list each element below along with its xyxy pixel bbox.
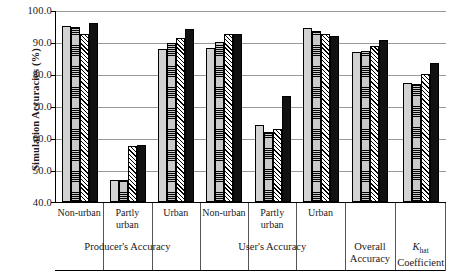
bar	[430, 63, 439, 202]
bar	[412, 84, 421, 202]
bar-groups	[56, 11, 446, 202]
x-label-producers-nonurban: Non-urban	[55, 203, 103, 237]
bar	[215, 42, 224, 202]
bar	[255, 125, 264, 201]
x-label-text: Partlyurban	[115, 207, 139, 230]
y-tick-100: 100.0	[6, 6, 52, 17]
bar	[403, 83, 412, 202]
x-label-overall-accuracy-spacer	[345, 203, 396, 237]
bar	[224, 34, 233, 202]
x-label-text: Partlyurban	[260, 207, 284, 230]
bar-group	[395, 11, 446, 202]
bar	[233, 34, 242, 201]
bar	[379, 40, 388, 202]
y-tick-80: 80.0	[6, 70, 52, 81]
bar	[361, 51, 370, 201]
bar	[185, 29, 194, 202]
plot-right-rule	[445, 203, 446, 271]
bar-group	[56, 11, 104, 202]
bar	[206, 48, 215, 202]
x-label-users-urban: Urban	[296, 203, 344, 237]
x-category-band: Non-urban Partlyurban Urban Non-urban Pa…	[55, 203, 446, 237]
x-label-producers-urban: Urban	[152, 203, 200, 237]
bar	[282, 96, 291, 202]
bar	[110, 180, 119, 202]
x-label-text: Urban	[163, 207, 188, 219]
y-tick-60: 60.0	[6, 134, 52, 145]
bar	[80, 34, 89, 202]
bar	[273, 129, 282, 201]
supergroup-producers-accuracy: Producer's Accuracy	[55, 237, 200, 270]
bar	[158, 49, 167, 202]
x-label-text: Non-urban	[202, 207, 245, 219]
bar-group	[104, 11, 152, 202]
x-label-producers-partly-urban: Partlyurban	[103, 203, 151, 237]
bar-group	[249, 11, 297, 202]
supergroup-khat-coefficient: KhatCoefficient	[395, 237, 446, 270]
bar	[321, 34, 330, 202]
supergroup-users-accuracy: User's Accuracy	[200, 237, 345, 270]
supergroup-label: User's Accuracy	[238, 241, 306, 253]
bar	[421, 74, 430, 202]
y-axis-tick-labels: 100.0 90.0 80.0 70.0 60.0 50.0 40.0	[0, 0, 52, 275]
bar	[119, 180, 128, 201]
bar	[128, 146, 137, 202]
x-supergroup-band: Producer's Accuracy User's Accuracy Over…	[55, 237, 446, 271]
supergroup-label: KhatCoefficient	[397, 241, 444, 268]
bar	[62, 26, 71, 202]
bar	[352, 52, 361, 202]
supergroup-label: OverallAccuracy	[350, 241, 390, 264]
plot-area	[55, 11, 446, 203]
x-label-users-partly-urban: Partlyurban	[248, 203, 296, 237]
bar	[89, 23, 98, 202]
x-label-text: Urban	[308, 207, 333, 219]
bar	[167, 43, 176, 202]
y-tick-50: 50.0	[6, 166, 52, 177]
bar-group	[297, 11, 345, 202]
bar-group	[200, 11, 248, 202]
bar	[176, 38, 185, 201]
y-tick-40: 40.0	[6, 198, 52, 209]
bar	[71, 27, 80, 202]
bar-group	[345, 11, 396, 202]
y-tick-70: 70.0	[6, 102, 52, 113]
bar	[312, 31, 321, 202]
bar	[137, 145, 146, 202]
supergroup-label: Producer's Accuracy	[84, 241, 170, 253]
bar	[330, 36, 339, 202]
supergroup-overall-accuracy: OverallAccuracy	[345, 237, 396, 270]
y-tick-90: 90.0	[6, 38, 52, 49]
x-label-text: Non-urban	[57, 207, 100, 219]
bar-chart: Simulation Accuracies (%) 100.0 90.0 80.…	[0, 0, 450, 275]
bar-group	[152, 11, 200, 202]
bar	[370, 46, 379, 202]
x-label-users-nonurban: Non-urban	[200, 203, 248, 237]
bar	[264, 132, 273, 202]
x-label-khat-spacer	[395, 203, 446, 237]
bar	[303, 28, 312, 202]
